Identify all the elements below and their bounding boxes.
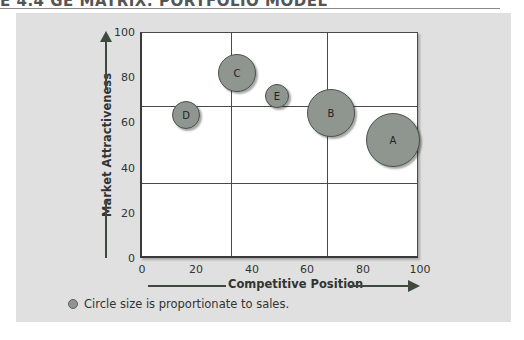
legend-circle-icon	[68, 299, 78, 309]
bubble-label: B	[328, 108, 335, 119]
x-axis-arrow-right-line	[350, 285, 410, 287]
bubble-b: B	[307, 89, 355, 137]
bubble-c: C	[218, 54, 256, 92]
y-tick-100: 100	[105, 26, 135, 39]
bubble-label: A	[390, 135, 397, 146]
y-tick-40: 40	[105, 162, 135, 175]
legend-note: Circle size is proportionate to sales.	[84, 297, 289, 311]
bubble-label: E	[274, 91, 280, 102]
x-tick-80: 80	[348, 263, 378, 276]
x-tick-60: 60	[292, 263, 322, 276]
gridline-vertical-2	[327, 33, 328, 256]
y-tick-80: 80	[105, 71, 135, 84]
title-divider	[0, 8, 500, 9]
bubble-label: C	[234, 68, 241, 79]
legend: Circle size is proportionate to sales.	[68, 297, 289, 311]
x-axis-arrow-left-line	[148, 285, 226, 287]
x-axis-label: Competitive Position	[228, 277, 363, 291]
y-tick-20: 20	[105, 207, 135, 220]
y-axis-label: Market Attractiveness	[100, 73, 114, 217]
x-tick-40: 40	[237, 263, 267, 276]
bubble-e: E	[265, 84, 289, 108]
gridline-horizontal-2	[142, 183, 417, 184]
x-tick-0: 0	[127, 263, 157, 276]
y-tick-60: 60	[105, 116, 135, 129]
bubble-a: A	[366, 113, 420, 167]
bubble-d: D	[172, 101, 200, 129]
x-tick-20: 20	[181, 263, 211, 276]
x-tick-100: 100	[405, 263, 435, 276]
x-axis-arrowhead-icon	[408, 280, 420, 292]
bubble-label: D	[182, 110, 190, 121]
